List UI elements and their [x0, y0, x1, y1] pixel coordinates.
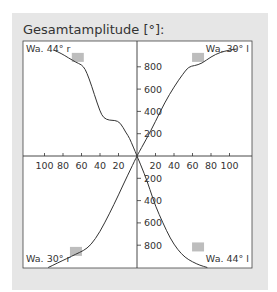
x-tick-label: 40 — [168, 160, 180, 171]
chart-plot: 1008060402020406080100 80060040020020040… — [0, 0, 277, 292]
x-tick-label: 80 — [57, 160, 69, 171]
y-tick-label: 600 — [144, 217, 162, 228]
x-tick-label: 80 — [205, 160, 217, 171]
label-bottom-left: Wa. 30° r — [26, 253, 71, 264]
x-tick-label: 20 — [112, 160, 124, 171]
x-tick-label: 60 — [75, 160, 87, 171]
y-tick-label: 200 — [144, 173, 162, 184]
x-tick-label: 20 — [149, 160, 161, 171]
y-tick-label: 600 — [144, 84, 162, 95]
x-tick-label: 100 — [220, 160, 238, 171]
label-top-right: Wa. 30° l — [206, 43, 249, 54]
y-tick-label: 800 — [144, 240, 162, 251]
label-top-left: Wa. 44° r — [26, 43, 71, 54]
y-tick-label: 800 — [144, 61, 162, 72]
marker-box — [192, 242, 204, 251]
x-tick-label: 40 — [94, 160, 106, 171]
y-tick-label: 400 — [144, 106, 162, 117]
x-tick-label: 60 — [186, 160, 198, 171]
x-tick-label: 100 — [35, 160, 53, 171]
y-tick-label: 400 — [144, 195, 162, 206]
label-bottom-right: Wa. 44° l — [206, 253, 249, 264]
marker-box — [192, 53, 204, 62]
